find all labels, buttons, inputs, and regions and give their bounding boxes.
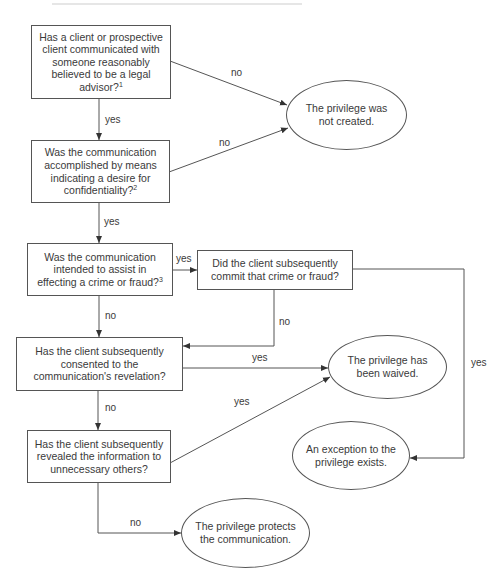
footnote-marker: 3 xyxy=(159,275,163,282)
edge-q4-q5 xyxy=(183,289,274,346)
outcome-text: The privilege was not created. xyxy=(297,102,396,127)
outcome-text: The privilege has been waived. xyxy=(339,354,436,379)
decision-text: Was the communication intended to assist… xyxy=(37,251,159,288)
edge-label-q4-q5: no xyxy=(279,316,290,327)
flowchart-canvas: Has a client or prospective client commu… xyxy=(0,0,501,585)
decision-box-revealed: Has the client subsequently revealed the… xyxy=(27,430,171,483)
edge-label-q3-q4: yes xyxy=(176,253,192,264)
decision-box-consented: Has the client subsequently consented to… xyxy=(16,337,183,391)
decision-text: Was the communication accomplished by me… xyxy=(44,146,157,196)
edge-label-q2-o1: no xyxy=(219,137,230,148)
outcome-exception: An exception to the privilege exists. xyxy=(292,421,410,490)
decision-box-crime-fraud: Was the communication intended to assist… xyxy=(27,243,173,296)
edge-label-q5-o2: yes xyxy=(252,352,268,363)
edge-label-q4-o3: yes xyxy=(471,357,487,368)
decision-text: Has the client subsequently revealed the… xyxy=(34,438,164,476)
edge-label-q2-q3: yes xyxy=(104,216,120,227)
decision-box-confidentiality: Was the communication accomplished by me… xyxy=(31,140,170,203)
decision-text: Has the client subsequently consented to… xyxy=(23,345,176,383)
outcome-not-created: The privilege was not created. xyxy=(286,80,407,150)
edge-label-q3-q5: no xyxy=(105,310,116,321)
edge-label-q1-q2: yes xyxy=(105,114,121,125)
outcome-waived: The privilege has been waived. xyxy=(328,335,447,399)
edge-label-q6-o4: no xyxy=(130,517,141,528)
decision-box-committed-crime: Did the client subsequently commit that … xyxy=(197,250,353,290)
outcome-protects: The privilege protects the communication… xyxy=(181,498,310,568)
outcome-text: An exception to the privilege exists. xyxy=(303,443,399,468)
edge-q2-o1 xyxy=(169,128,288,172)
edge-label-q6-o2: yes xyxy=(234,396,250,407)
decision-text: Did the client subsequently commit that … xyxy=(204,257,346,282)
footnote-marker: 1 xyxy=(119,80,123,87)
outcome-text: The privilege protects the communication… xyxy=(192,520,299,545)
edge-label-q1-o1: no xyxy=(231,67,242,78)
edge-label-q5-q6: no xyxy=(105,402,116,413)
decision-text: Has a client or prospective client commu… xyxy=(39,31,163,93)
footnote-marker: 2 xyxy=(133,184,137,191)
edge-q1-o1 xyxy=(170,61,287,105)
decision-box-legal-advisor: Has a client or prospective client commu… xyxy=(31,25,171,99)
